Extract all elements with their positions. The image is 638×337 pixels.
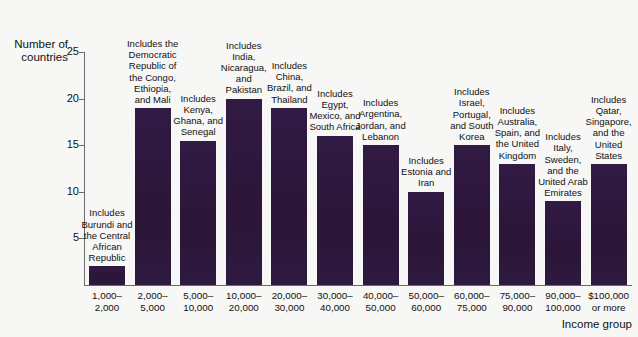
y-axis-tick-label: 15 xyxy=(51,139,79,150)
bar[interactable] xyxy=(271,108,307,285)
bar[interactable] xyxy=(408,192,444,285)
bar-column[interactable]: Includes India, Nicaragua, and Pakistan xyxy=(221,0,267,285)
bar-column[interactable]: Includes Argentina, Jordan, and Lebanon xyxy=(358,0,404,285)
bar[interactable] xyxy=(545,201,581,285)
bar-column[interactable]: Includes China, Brazil, and Thailand xyxy=(266,0,312,285)
bar[interactable] xyxy=(363,145,399,285)
y-axis-tick-label: 5 xyxy=(51,232,79,243)
y-axis-tick-label-wrap: 25 xyxy=(46,46,79,57)
bar-column[interactable]: Includes Qatar, Singapore, and the Unite… xyxy=(586,0,632,285)
y-axis-tick-label-wrap: 5 xyxy=(46,232,79,243)
bar[interactable] xyxy=(89,266,125,285)
bar-annotation: Includes Argentina, Jordan, and Lebanon xyxy=(354,97,408,142)
bar-annotation: Includes Kenya, Ghana, and Senegal xyxy=(171,93,225,138)
bar-column[interactable]: Includes the Democratic Republic of the … xyxy=(130,0,176,285)
bar-column[interactable]: Includes Estonia and Iran xyxy=(403,0,449,285)
bar[interactable] xyxy=(135,108,171,285)
y-axis-tick-label-wrap: 20 xyxy=(46,93,79,104)
bar-column[interactable]: Includes Kenya, Ghana, and Senegal xyxy=(175,0,221,285)
bar-series: Includes Burundi and the Central African… xyxy=(84,0,632,285)
bar-annotation: Includes Burundi and the Central African… xyxy=(80,207,134,263)
bar[interactable] xyxy=(499,164,535,285)
bar-column[interactable]: Includes Italy, Sweden, and the United A… xyxy=(540,0,586,285)
income-group-bar-chart: Number ofcountries Income group 25201510… xyxy=(0,0,638,337)
y-axis-tick-label-wrap: 10 xyxy=(46,186,79,197)
y-axis-tick-label: 10 xyxy=(51,186,79,197)
bar-annotation: Includes Qatar, Singapore, and the Unite… xyxy=(582,94,636,161)
x-axis-tick-label: $100,000 or more xyxy=(582,290,636,313)
y-axis-tick-label: 20 xyxy=(51,93,79,104)
bar-annotation: Includes Estonia and Iran xyxy=(399,155,453,189)
bar[interactable] xyxy=(591,164,627,285)
bar-column[interactable]: Includes Australia, Spain, and the Unite… xyxy=(494,0,540,285)
bar[interactable] xyxy=(180,141,216,285)
x-axis-line xyxy=(84,285,632,286)
bar-column[interactable]: Includes Burundi and the Central African… xyxy=(84,0,130,285)
y-axis-tick-label: 25 xyxy=(51,46,79,57)
bar[interactable] xyxy=(454,145,490,285)
bar[interactable] xyxy=(226,99,262,285)
bar-column[interactable]: Includes Egypt, Mexico, and South Africa xyxy=(312,0,358,285)
bar-column[interactable]: Includes Israel, Portugal, and South Kor… xyxy=(449,0,495,285)
x-axis-tick-labels: 1,000– 2,0002,000– 5,0005,000– 10,00010,… xyxy=(84,290,632,320)
bar[interactable] xyxy=(317,136,353,285)
y-axis-tick-label-wrap: 15 xyxy=(46,139,79,150)
